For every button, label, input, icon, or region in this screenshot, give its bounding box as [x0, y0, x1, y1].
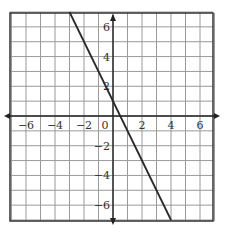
- x-tick-label: 6: [197, 119, 204, 132]
- x-tick-label: −4: [47, 119, 63, 132]
- x-axis-right-arrow-icon: [214, 113, 220, 119]
- y-tick-label: 4: [103, 51, 110, 64]
- x-tick-label: 2: [139, 119, 146, 132]
- x-tick-label: −6: [18, 119, 34, 132]
- y-tick-label: 6: [103, 21, 110, 34]
- coordinate-graph: −6−4−20246 642−2−4−6: [0, 0, 225, 232]
- x-axis-left-arrow-icon: [4, 113, 10, 119]
- axes: [4, 14, 220, 225]
- x-tick-label: −2: [76, 119, 92, 132]
- x-tick-label: 4: [168, 119, 175, 132]
- y-axis-up-arrow-icon: [110, 14, 116, 21]
- y-tick-label: −6: [94, 199, 110, 212]
- y-tick-label: −2: [94, 140, 110, 153]
- x-tick-label: 0: [102, 119, 109, 132]
- y-tick-label: −4: [94, 169, 110, 182]
- x-tick-labels: −6−4−20246: [18, 119, 204, 132]
